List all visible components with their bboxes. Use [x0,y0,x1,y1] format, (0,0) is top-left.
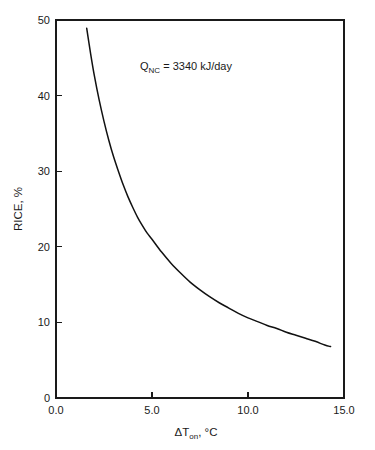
y-axis-title: RICE, % [12,187,24,231]
y-tick-label-40: 40 [38,90,50,102]
qnc-annotation-tail: = 3340 kJ/day [160,60,232,72]
y-axis-title-text: RICE, % [12,187,24,231]
y-tick-label-20: 20 [38,241,50,253]
y-tick-label-10: 10 [38,316,50,328]
y-tick-label-50: 50 [38,14,50,26]
x-tick-label-15: 15.0 [333,404,354,416]
x-tick-label-5: 5.0 [144,404,159,416]
y-tick-label-0: 0 [44,392,50,404]
x-tick-label-0: 0.0 [48,404,63,416]
y-tick-label-30: 30 [38,165,50,177]
x-axis-title-main: ΔT [175,426,190,438]
qnc-annotation-subscript: NC [149,66,161,75]
x-axis-title-tail: , °C [198,426,217,438]
x-axis-title-subscript: on [189,432,198,441]
x-tick-label-10: 10.0 [237,404,258,416]
chart-figure: 0 10 20 30 40 50 0.0 5.0 10.0 15.0 RICE,… [0,0,375,450]
